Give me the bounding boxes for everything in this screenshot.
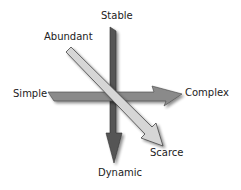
label-dynamic: Dynamic xyxy=(98,168,142,178)
label-complex: Complex xyxy=(185,88,229,98)
label-abundant: Abundant xyxy=(44,32,93,42)
label-simple: Simple xyxy=(13,89,47,99)
label-stable: Stable xyxy=(101,11,133,21)
label-scarce: Scarce xyxy=(150,148,184,158)
